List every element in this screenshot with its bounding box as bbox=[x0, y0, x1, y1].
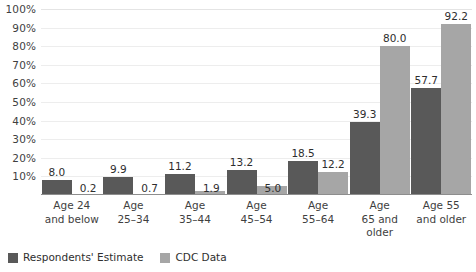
bar-value-label: 39.3 bbox=[353, 109, 376, 120]
x-axis-category-label: Age 45–54 bbox=[226, 199, 288, 243]
bar-group: 18.512.2 bbox=[287, 9, 349, 195]
y-axis-tick-label: 10% bbox=[12, 171, 36, 181]
x-axis-labels: Age 24 and belowAge 25–34Age 35–44Age 45… bbox=[41, 199, 472, 243]
x-axis-category-label: Age 35–44 bbox=[164, 199, 226, 243]
y-axis: 100%90%80%70%60%50%40%30%20%10% bbox=[0, 9, 36, 195]
legend-label: CDC Data bbox=[175, 252, 226, 263]
bar-value-label: 0.2 bbox=[80, 183, 97, 194]
bar-pair: 11.21.9 bbox=[164, 9, 226, 195]
bar-pair: 9.90.7 bbox=[103, 9, 165, 195]
y-axis-tick-label: 20% bbox=[12, 153, 36, 163]
legend-item[interactable]: Respondents' Estimate bbox=[8, 252, 143, 263]
bar-group: 8.00.2 bbox=[41, 9, 103, 195]
bar-respondents-estimate[interactable]: 39.3 bbox=[350, 122, 380, 195]
bar-groups: 8.00.29.90.711.21.913.25.018.512.239.380… bbox=[41, 9, 472, 195]
x-axis-category-label: Age 65 and older bbox=[349, 199, 411, 243]
bar-respondents-estimate[interactable]: 18.5 bbox=[288, 161, 318, 195]
bar-cdc-data[interactable]: 80.0 bbox=[380, 46, 410, 195]
bar-value-label: 8.0 bbox=[48, 167, 65, 178]
bar-value-label: 12.2 bbox=[321, 159, 344, 170]
grouped-bar-chart: 100%90%80%70%60%50%40%30%20%10% 8.00.29.… bbox=[0, 0, 476, 272]
bar-value-label: 18.5 bbox=[291, 148, 314, 159]
legend-label: Respondents' Estimate bbox=[23, 252, 143, 263]
bar-cdc-data[interactable]: 12.2 bbox=[318, 172, 348, 195]
bar-cdc-data[interactable]: 92.2 bbox=[441, 24, 471, 195]
bar-value-label: 0.7 bbox=[141, 183, 158, 194]
bar-pair: 13.25.0 bbox=[226, 9, 288, 195]
bar-respondents-estimate[interactable]: 11.2 bbox=[165, 174, 195, 195]
y-axis-tick-label: 40% bbox=[12, 116, 36, 126]
x-axis-category-label: Age 55 and older bbox=[410, 199, 472, 243]
bar-pair: 18.512.2 bbox=[287, 9, 349, 195]
y-axis-tick-label: 70% bbox=[12, 60, 36, 70]
bar-value-label: 11.2 bbox=[168, 161, 191, 172]
bar-group: 9.90.7 bbox=[103, 9, 165, 195]
bar-pair: 39.380.0 bbox=[349, 9, 411, 195]
y-axis-tick-label: 50% bbox=[12, 97, 36, 107]
y-axis-tick-label: 30% bbox=[12, 134, 36, 144]
bar-respondents-estimate[interactable]: 57.7 bbox=[411, 88, 441, 195]
bar-respondents-estimate[interactable]: 13.2 bbox=[227, 170, 257, 195]
bar-value-label: 57.7 bbox=[415, 75, 438, 86]
bar-respondents-estimate[interactable]: 9.9 bbox=[103, 177, 133, 195]
bar-group: 39.380.0 bbox=[349, 9, 411, 195]
y-axis-tick-label: 80% bbox=[12, 41, 36, 51]
y-axis-tick-label: 90% bbox=[12, 23, 36, 33]
legend-swatch-icon bbox=[8, 253, 18, 263]
bar-value-label: 13.2 bbox=[230, 157, 253, 168]
x-axis-category-label: Age 25–34 bbox=[103, 199, 165, 243]
y-axis-tick-label: 100% bbox=[6, 4, 36, 14]
bar-group: 11.21.9 bbox=[164, 9, 226, 195]
bar-value-label: 5.0 bbox=[265, 183, 282, 194]
bar-pair: 57.792.2 bbox=[410, 9, 472, 195]
bar-respondents-estimate[interactable]: 8.0 bbox=[42, 180, 72, 195]
plot-area: 8.00.29.90.711.21.913.25.018.512.239.380… bbox=[41, 9, 472, 195]
x-axis-category-label: Age 24 and below bbox=[41, 199, 103, 243]
bar-group: 13.25.0 bbox=[226, 9, 288, 195]
bar-pair: 8.00.2 bbox=[41, 9, 103, 195]
y-axis-tick-label: 60% bbox=[12, 78, 36, 88]
bar-value-label: 9.9 bbox=[110, 164, 127, 175]
legend: Respondents' EstimateCDC Data bbox=[8, 252, 244, 263]
x-axis-category-label: Age 55–64 bbox=[287, 199, 349, 243]
x-axis-line bbox=[41, 194, 472, 195]
legend-swatch-icon bbox=[160, 253, 170, 263]
bar-group: 57.792.2 bbox=[410, 9, 472, 195]
bar-value-label: 92.2 bbox=[445, 11, 468, 22]
bar-value-label: 1.9 bbox=[203, 183, 220, 194]
bar-value-label: 80.0 bbox=[383, 33, 406, 44]
legend-item[interactable]: CDC Data bbox=[160, 252, 226, 263]
